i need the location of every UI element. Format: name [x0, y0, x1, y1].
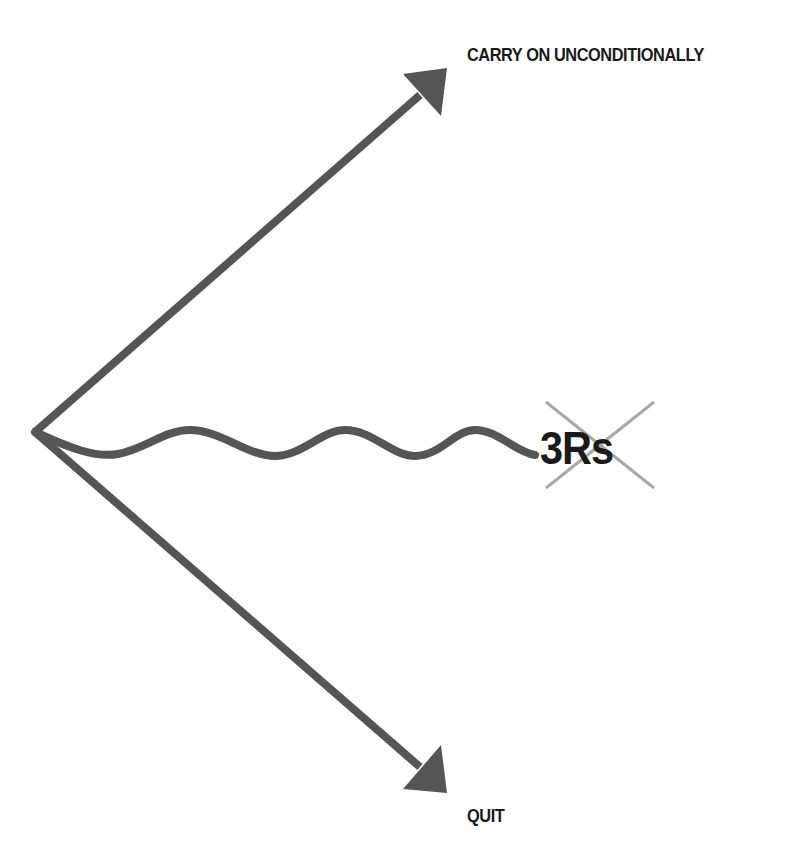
branch-label-quit: QUIT	[467, 805, 504, 827]
bottom-arrowhead-icon	[403, 745, 447, 793]
bottom-arrow-shaft	[35, 432, 420, 767]
wavy-line	[35, 430, 535, 456]
branch-label-carry-on: CARRY ON UNCONDITIONALLY	[467, 44, 704, 66]
top-arrow-shaft	[35, 95, 420, 432]
branch-label-3rs: 3Rs	[540, 421, 613, 475]
branching-diagram	[0, 0, 798, 851]
